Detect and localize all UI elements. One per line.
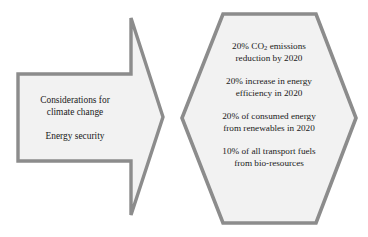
diagram-shapes — [0, 0, 368, 237]
diagram-canvas: Considerations for climate change Energy… — [0, 0, 368, 237]
block-arrow-shape — [18, 18, 163, 215]
hexagon-shape — [182, 14, 356, 223]
